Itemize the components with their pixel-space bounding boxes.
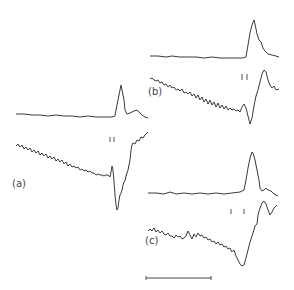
panel-b [150,20,279,124]
panel-b-upper-trace [150,20,279,58]
panel-a-upper-trace [16,85,148,118]
spectra-figure: (a) (b) (c) [0,0,294,290]
panel-c [148,152,278,266]
panel-b-lower-trace [150,70,279,124]
panel-c-upper-trace [148,152,278,196]
panel-c-label: (c) [145,235,158,246]
panel-b-label: (b) [148,86,162,97]
panel-c-lower-trace [148,201,277,266]
panel-a-label: (a) [12,178,26,189]
spectra-plot [0,0,294,290]
panel-a [16,85,148,210]
panel-a-lower-trace [16,132,148,210]
